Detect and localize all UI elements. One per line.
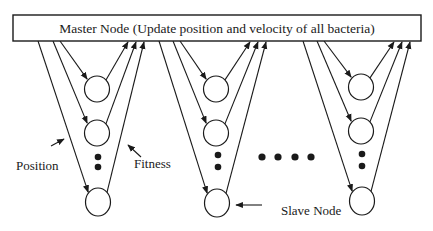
master-node: Master Node (Update position and velocit… bbox=[13, 15, 421, 41]
position-label: Position bbox=[16, 158, 59, 173]
group-2 bbox=[159, 41, 266, 217]
slave-node-label: Slave Node bbox=[281, 203, 342, 218]
slave-node-circle bbox=[205, 189, 230, 217]
horizontal-ellipsis-dot bbox=[274, 153, 281, 160]
slave-node-circle bbox=[85, 76, 110, 102]
fitness-arrow-icon bbox=[370, 42, 394, 78]
bfo-master-slave-diagram: Master Node (Update position and velocit… bbox=[0, 0, 433, 231]
slave-node-circle bbox=[204, 76, 229, 102]
horizontal-ellipsis-dot bbox=[258, 153, 265, 160]
fitness-arrow-icon bbox=[371, 42, 410, 192]
slave-node-annotation: Slave Node bbox=[236, 203, 342, 218]
vertical-ellipsis-dot bbox=[215, 164, 222, 171]
horizontal-ellipsis bbox=[258, 153, 314, 160]
fitness-arrow-icon bbox=[225, 42, 250, 80]
slave-node-circle bbox=[85, 120, 110, 146]
position-annotation: Position bbox=[16, 139, 64, 173]
slave-node-circle bbox=[349, 118, 374, 144]
fitness-annotation: Fitness bbox=[128, 145, 171, 171]
position-pointer-arrow-icon bbox=[51, 139, 64, 146]
slave-groups bbox=[38, 41, 410, 217]
horizontal-ellipsis-dot bbox=[307, 153, 314, 160]
position-arrow-icon bbox=[173, 41, 206, 123]
vertical-ellipsis-dot bbox=[359, 163, 366, 170]
group-3 bbox=[303, 41, 410, 215]
position-arrow-icon bbox=[303, 41, 352, 191]
vertical-ellipsis-dot bbox=[95, 154, 102, 161]
position-arrow-icon bbox=[60, 41, 87, 79]
slave-node-circle bbox=[349, 74, 374, 100]
vertical-ellipsis-dot bbox=[215, 152, 222, 159]
group-1 bbox=[38, 41, 144, 216]
fitness-arrow-icon bbox=[226, 42, 266, 194]
slave-node-circle bbox=[86, 188, 111, 216]
vertical-ellipsis-dot bbox=[95, 164, 102, 171]
position-arrow-icon bbox=[180, 41, 206, 79]
vertical-ellipsis-dot bbox=[359, 151, 366, 158]
master-node-label: Master Node (Update position and velocit… bbox=[59, 21, 375, 36]
position-arrow-icon bbox=[317, 41, 351, 121]
horizontal-ellipsis-dot bbox=[291, 153, 298, 160]
position-arrow-icon bbox=[324, 41, 351, 77]
fitness-label: Fitness bbox=[134, 156, 171, 171]
slave-node-circle bbox=[204, 120, 229, 146]
slave-node-circle bbox=[350, 187, 375, 215]
position-arrow-icon bbox=[53, 41, 87, 123]
